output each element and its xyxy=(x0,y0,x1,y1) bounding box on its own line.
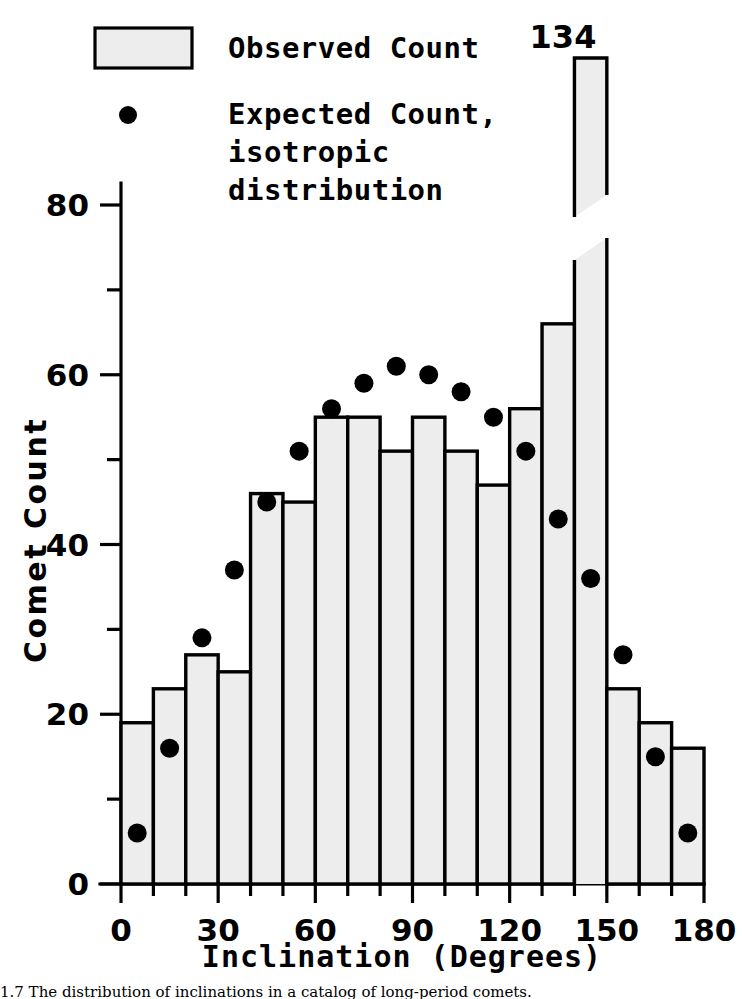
y-tick-label-80: 80 xyxy=(46,187,89,223)
legend-label-expected-line1: Expected Count, xyxy=(228,97,497,131)
chart-legend: Observed Count Expected Count, isotropic… xyxy=(95,28,497,207)
expected-dot-85 xyxy=(387,357,406,376)
figure-caption: 1.7 The distribution of inclinations in … xyxy=(0,983,742,999)
expected-dot-15 xyxy=(160,739,179,758)
x-tick-label-180: 180 xyxy=(672,912,737,948)
broken-bar-lower-fill xyxy=(574,238,606,884)
bar-60-70 xyxy=(315,417,347,884)
expected-dot-175 xyxy=(678,824,697,843)
x-axis-title: Inclination (Degrees) xyxy=(202,939,602,974)
bar-80-90 xyxy=(380,451,412,884)
legend-swatch-observed xyxy=(95,28,192,68)
bar-120-130 xyxy=(510,409,542,884)
chart-svg: Observed Count Expected Count, isotropic… xyxy=(0,0,742,999)
expected-dot-135 xyxy=(549,510,568,529)
bar-20-30 xyxy=(186,655,218,884)
bar-170-180 xyxy=(672,748,704,884)
expected-dot-125 xyxy=(516,442,535,461)
x-tick-label-0: 0 xyxy=(110,912,132,948)
y-axis-ticks xyxy=(100,205,121,884)
comet-inclination-histogram-figure: Observed Count Expected Count, isotropic… xyxy=(0,0,742,999)
broken-bar-upper-fill xyxy=(574,58,606,217)
legend-dot-expected xyxy=(119,106,137,124)
expected-dot-115 xyxy=(484,408,503,427)
bar-10-20 xyxy=(153,689,185,884)
expected-dot-45 xyxy=(257,493,276,512)
bar-0-10 xyxy=(121,723,153,884)
expected-dot-65 xyxy=(322,399,341,418)
bar-160-170 xyxy=(639,723,671,884)
y-tick-label-20: 20 xyxy=(46,696,89,732)
expected-dot-55 xyxy=(290,442,309,461)
expected-dot-95 xyxy=(419,365,438,384)
x-axis-ticks xyxy=(121,884,704,903)
legend-label-expected-line2: isotropic xyxy=(228,135,390,169)
y-axis-title: Comet Count xyxy=(18,417,53,663)
expected-dot-105 xyxy=(452,382,471,401)
bar-40-50 xyxy=(251,494,283,884)
legend-label-expected-line3: distribution xyxy=(228,173,444,207)
y-tick-label-60: 60 xyxy=(46,357,89,393)
bar-110-120 xyxy=(477,485,509,884)
bar-150-160 xyxy=(607,689,639,884)
expected-dot-5 xyxy=(128,824,147,843)
legend-label-observed: Observed Count xyxy=(228,31,479,65)
expected-dot-145 xyxy=(581,569,600,588)
bar-70-80 xyxy=(348,417,380,884)
expected-dot-75 xyxy=(354,374,373,393)
bar-50-60 xyxy=(283,502,315,884)
bar-100-110 xyxy=(445,451,477,884)
bar-140-150-broken xyxy=(574,58,606,884)
y-tick-label-0: 0 xyxy=(67,866,89,902)
bar-90-100 xyxy=(413,417,445,884)
expected-dot-25 xyxy=(192,628,211,647)
expected-dot-155 xyxy=(614,645,633,664)
bar-30-40 xyxy=(218,672,250,884)
broken-bar-value-label: 134 xyxy=(530,18,597,56)
expected-dot-165 xyxy=(646,747,665,766)
expected-dot-35 xyxy=(225,560,244,579)
bar-130-140 xyxy=(542,324,574,884)
